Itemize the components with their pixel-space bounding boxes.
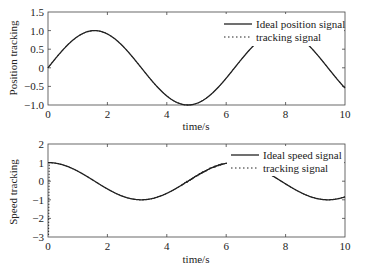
plot2-x-tick-labels: 0 2 4 6 8 10 <box>45 240 351 252</box>
svg-text:−3: −3 <box>32 231 44 243</box>
svg-text:−0.5: −0.5 <box>24 80 44 92</box>
plot1-x-tick-labels: 0 2 4 6 8 10 <box>45 108 351 120</box>
svg-text:−2: −2 <box>32 212 44 224</box>
position-tracking-plot: 1.5 1.0 0.5 0 −0.5 −1.0 0 2 4 6 8 10 tim… <box>7 6 351 132</box>
plot1-y-tick-labels: 1.5 1.0 0.5 0 −0.5 −1.0 <box>24 6 44 111</box>
svg-text:0: 0 <box>39 62 45 74</box>
plot1-y-axis-label: Position tracking <box>7 20 19 95</box>
plot2-x-axis-label: time/s <box>183 253 210 265</box>
plot2-y-tick-labels: 2 1 0 −1 −2 −3 <box>32 138 44 243</box>
svg-text:4: 4 <box>164 108 170 120</box>
svg-text:−1: −1 <box>32 194 44 206</box>
plot1-legend-ideal: Ideal position signal <box>256 18 345 30</box>
svg-text:0: 0 <box>45 108 51 120</box>
svg-text:2: 2 <box>105 240 111 252</box>
svg-text:1.5: 1.5 <box>30 6 44 18</box>
svg-text:10: 10 <box>340 108 352 120</box>
svg-text:0: 0 <box>39 175 45 187</box>
svg-text:10: 10 <box>340 240 352 252</box>
svg-text:−1.0: −1.0 <box>24 99 44 111</box>
svg-text:2: 2 <box>105 108 111 120</box>
svg-text:6: 6 <box>223 240 229 252</box>
plot2-y-axis-label: Speed tracking <box>7 159 19 225</box>
svg-text:0.5: 0.5 <box>30 43 44 55</box>
svg-text:4: 4 <box>164 240 170 252</box>
plot2-legend-ideal: Ideal speed signal <box>263 149 342 161</box>
svg-text:1: 1 <box>39 157 45 169</box>
plot1-legend-tracking: tracking signal <box>256 31 321 43</box>
svg-text:8: 8 <box>283 240 289 252</box>
plot2-legend-tracking: tracking signal <box>263 162 328 174</box>
figure: 1.5 1.0 0.5 0 −0.5 −1.0 0 2 4 6 8 10 tim… <box>0 0 365 273</box>
svg-text:6: 6 <box>223 108 229 120</box>
speed-tracking-plot: 2 1 0 −1 −2 −3 0 2 4 6 8 10 time/s Speed… <box>7 138 351 265</box>
svg-text:1.0: 1.0 <box>30 25 44 37</box>
plot2-legend: Ideal speed signal tracking signal <box>227 146 344 176</box>
plot1-x-axis-label: time/s <box>183 120 210 132</box>
svg-text:0: 0 <box>45 240 51 252</box>
svg-text:2: 2 <box>39 138 45 150</box>
svg-text:8: 8 <box>283 108 289 120</box>
plot1-legend: Ideal position signal tracking signal <box>218 14 345 46</box>
